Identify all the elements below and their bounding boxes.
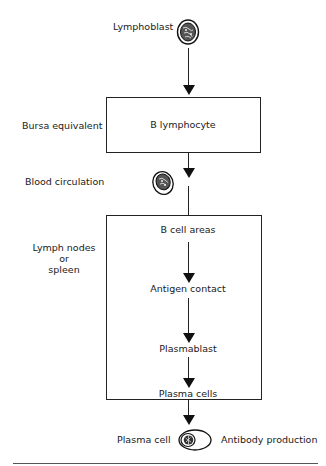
bursa-equivalent-label: Bursa equivalent: [22, 120, 102, 131]
connector-line: [188, 400, 189, 416]
plasma-cell-label: Plasma cell: [117, 434, 171, 445]
arrow-down-icon: [183, 333, 195, 343]
arrow-down-icon: [183, 378, 195, 388]
connector-line: [188, 242, 189, 274]
arrow-down-icon: [183, 415, 195, 425]
lymphoblast-label: Lymphoblast: [113, 21, 173, 32]
lymph-nodes-box: [106, 215, 262, 400]
arrow-down-icon: [183, 273, 195, 283]
connector-line: [188, 186, 189, 215]
arrow-down-icon: [183, 168, 195, 178]
plasmablast-node: Plasmablast: [159, 343, 216, 354]
lymphoblast-cell-icon: [176, 18, 202, 48]
bottom-divider: [13, 463, 318, 464]
b-cell-areas-node: B cell areas: [160, 224, 215, 235]
b-lymphocyte-node: B lymphocyte: [150, 119, 215, 130]
antibody-production-label: Antibody production: [221, 434, 317, 445]
lymph-nodes-label-line2: spleen: [48, 264, 79, 275]
antigen-contact-node: Antigen contact: [150, 283, 225, 294]
connector-line: [188, 357, 189, 379]
plasma-cell-icon: [176, 428, 212, 452]
plasma-cells-node: Plasma cells: [159, 388, 218, 399]
circulating-lymphocyte-icon: [151, 170, 175, 196]
arrow-down-icon: [183, 85, 195, 95]
connector-line: [188, 153, 189, 169]
connector-line: [188, 298, 189, 334]
lymph-nodes-label-line1: Lymph nodes or: [32, 242, 95, 264]
blood-circulation-label: Blood circulation: [25, 176, 104, 187]
lymph-nodes-label: Lymph nodes or spleen: [27, 242, 101, 275]
connector-line: [188, 48, 189, 86]
